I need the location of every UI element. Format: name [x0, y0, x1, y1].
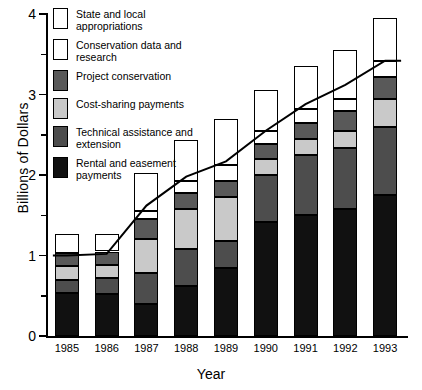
- bar-segment[interactable]: [214, 181, 238, 197]
- chart-legend: State and local appropriationsConservati…: [53, 8, 203, 188]
- bar-segment[interactable]: [373, 18, 397, 61]
- legend-item[interactable]: Project conservation: [53, 70, 203, 91]
- bar-segment[interactable]: [254, 159, 278, 175]
- bar-segment[interactable]: [373, 99, 397, 127]
- y-tick-label: 3: [0, 88, 36, 102]
- bar-segment[interactable]: [95, 265, 119, 278]
- legend-item[interactable]: Technical assistance and extension: [53, 126, 203, 150]
- legend-label: State and local appropriations: [76, 8, 203, 32]
- legend-label: Conservation data and research: [76, 39, 203, 63]
- legend-item[interactable]: Conservation data and research: [53, 39, 203, 63]
- y-tick-major: [39, 13, 47, 15]
- bar-segment[interactable]: [294, 109, 318, 123]
- bar-segment[interactable]: [333, 131, 357, 149]
- legend-swatch: [53, 70, 68, 91]
- bar-segment[interactable]: [294, 139, 318, 155]
- legend-item[interactable]: Cost-sharing payments: [53, 98, 203, 119]
- bar-segment[interactable]: [174, 286, 198, 336]
- bar-segment[interactable]: [294, 215, 318, 336]
- bar-segment[interactable]: [373, 127, 397, 195]
- bar-segment[interactable]: [55, 234, 79, 253]
- x-axis-title: Year: [0, 366, 422, 382]
- legend-swatch: [53, 98, 68, 119]
- bar-segment[interactable]: [373, 61, 397, 77]
- bar-segment[interactable]: [174, 193, 198, 209]
- bar-segment[interactable]: [55, 266, 79, 280]
- y-tick-label: 2: [0, 168, 36, 182]
- bar-segment[interactable]: [294, 155, 318, 215]
- bar-segment[interactable]: [214, 241, 238, 268]
- bar-1989[interactable]: [214, 14, 238, 336]
- bar-segment[interactable]: [214, 268, 238, 336]
- bar-segment[interactable]: [134, 239, 158, 273]
- legend-item[interactable]: Rental and easement payments: [53, 157, 203, 181]
- legend-swatch: [53, 39, 68, 60]
- bar-segment[interactable]: [294, 123, 318, 139]
- legend-label: Rental and easement payments: [76, 157, 203, 181]
- bar-segment[interactable]: [333, 50, 357, 98]
- bar-segment[interactable]: [294, 66, 318, 109]
- y-tick-major: [39, 255, 47, 257]
- bar-segment[interactable]: [134, 304, 158, 336]
- y-tick-label: 0: [0, 329, 36, 343]
- bar-segment[interactable]: [333, 209, 357, 336]
- legend-swatch: [53, 126, 68, 147]
- y-tick-label: 1: [0, 249, 36, 263]
- bar-segment[interactable]: [174, 249, 198, 286]
- legend-item[interactable]: State and local appropriations: [53, 8, 203, 32]
- x-tick-label: 1993: [362, 342, 408, 354]
- bar-1992[interactable]: [333, 14, 357, 336]
- bar-1990[interactable]: [254, 14, 278, 336]
- bar-1993[interactable]: [373, 14, 397, 336]
- bar-segment[interactable]: [134, 219, 158, 239]
- legend-label: Technical assistance and extension: [76, 126, 203, 150]
- bar-segment[interactable]: [55, 280, 79, 294]
- y-tick-major: [39, 94, 47, 96]
- bar-segment[interactable]: [254, 175, 278, 222]
- bar-segment[interactable]: [55, 293, 79, 336]
- bar-segment[interactable]: [254, 131, 278, 145]
- bar-segment[interactable]: [373, 195, 397, 336]
- bar-segment[interactable]: [95, 294, 119, 336]
- bar-segment[interactable]: [95, 278, 119, 294]
- bar-segment[interactable]: [333, 99, 357, 111]
- bar-segment[interactable]: [174, 209, 198, 249]
- bar-segment[interactable]: [214, 165, 238, 180]
- bar-segment[interactable]: [95, 234, 119, 252]
- legend-label: Cost-sharing payments: [76, 98, 184, 111]
- chart-root: Billions of Dollars Year 01234 198519861…: [0, 0, 422, 390]
- bar-segment[interactable]: [134, 273, 158, 304]
- bar-segment[interactable]: [254, 144, 278, 158]
- legend-swatch: [53, 8, 68, 29]
- bar-segment[interactable]: [55, 253, 79, 266]
- bar-segment[interactable]: [373, 77, 397, 99]
- bar-segment[interactable]: [214, 197, 238, 241]
- y-tick-major: [39, 335, 47, 337]
- legend-swatch: [53, 157, 68, 178]
- bar-segment[interactable]: [254, 90, 278, 130]
- bar-1991[interactable]: [294, 14, 318, 336]
- bar-segment[interactable]: [214, 119, 238, 166]
- bar-segment[interactable]: [333, 111, 357, 131]
- legend-label: Project conservation: [76, 70, 171, 83]
- y-tick-label: 4: [0, 7, 36, 21]
- y-tick-major: [39, 174, 47, 176]
- bar-segment[interactable]: [134, 211, 158, 219]
- x-axis-line: [46, 336, 408, 338]
- bar-segment[interactable]: [333, 148, 357, 208]
- bar-segment[interactable]: [95, 252, 119, 266]
- bar-segment[interactable]: [254, 222, 278, 336]
